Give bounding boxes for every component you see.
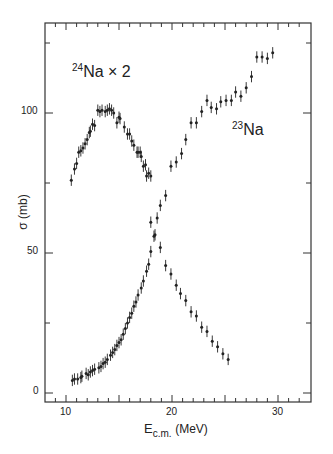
data-point: [134, 301, 137, 304]
data-point: [195, 315, 198, 318]
data-point: [120, 338, 123, 341]
data-point: [250, 75, 253, 78]
data-point: [111, 351, 114, 354]
data-point: [128, 316, 131, 319]
data-point: [200, 326, 203, 329]
y-tick-label-0: 0: [33, 385, 39, 396]
data-point: [261, 56, 264, 59]
y-tick-label-100: 100: [21, 105, 38, 116]
data-point: [239, 95, 242, 98]
y-tick-label-50: 50: [27, 245, 38, 256]
data-point: [145, 270, 148, 273]
data-point: [126, 322, 129, 325]
data-point: [130, 312, 133, 315]
data-point: [211, 340, 214, 343]
data-point: [142, 280, 145, 283]
data-point: [124, 327, 127, 330]
data-point: [216, 345, 219, 348]
annotation-23na: 23Na: [232, 120, 264, 139]
y-axis-ticks: [45, 43, 311, 393]
data-point: [122, 333, 125, 336]
x-tick-label-30: 30: [272, 406, 283, 417]
data-point: [79, 149, 82, 152]
x-axis-label-sub: c.m.: [153, 428, 172, 439]
data-point: [156, 217, 159, 220]
data-point: [200, 110, 203, 113]
data-point: [104, 361, 107, 364]
data-point: [110, 109, 113, 112]
data-point: [205, 330, 208, 333]
data-point: [93, 368, 96, 371]
data-point: [255, 56, 258, 59]
data-point: [89, 130, 92, 133]
data-point: [73, 168, 76, 171]
data-point: [80, 375, 83, 378]
data-point: [149, 250, 152, 253]
series-24na-points: [70, 103, 230, 365]
data-point: [169, 273, 172, 276]
data-point: [190, 310, 193, 313]
data-point: [179, 292, 182, 295]
annotation-23na-mass: 23: [232, 120, 243, 131]
data-point: [84, 142, 87, 145]
data-point: [145, 175, 148, 178]
data-point: [132, 305, 135, 308]
data-point: [159, 204, 162, 207]
data-point: [175, 161, 178, 164]
data-point: [109, 354, 112, 357]
data-point: [113, 348, 116, 351]
data-point: [159, 246, 162, 249]
data-point: [87, 373, 90, 376]
series-23na-points: [71, 47, 274, 386]
annotation-24na-mass: 24: [72, 62, 83, 73]
data-point: [271, 51, 274, 54]
data-point: [184, 138, 187, 141]
annotation-24na-text: Na × 2: [83, 63, 131, 80]
data-point: [147, 263, 150, 266]
data-point: [230, 99, 233, 102]
data-point: [118, 341, 121, 344]
data-point: [219, 100, 222, 103]
data-point: [227, 358, 230, 361]
data-point: [144, 163, 147, 166]
data-point: [70, 179, 73, 182]
data-point: [123, 126, 126, 129]
data-point: [81, 147, 84, 150]
x-tick-label-20: 20: [166, 406, 177, 417]
data-point: [195, 121, 198, 124]
x-tick-label-10: 10: [60, 406, 71, 417]
data-point: [180, 152, 183, 155]
data-point: [234, 91, 237, 94]
data-point: [112, 112, 115, 115]
data-point: [190, 121, 193, 124]
x-axis-label: Ec.m. (MeV): [144, 421, 208, 439]
data-point: [147, 172, 150, 175]
data-point: [175, 284, 178, 287]
data-point: [106, 358, 109, 361]
annotation-24na: 24Na × 2: [72, 62, 131, 81]
data-point: [164, 264, 167, 267]
data-point: [221, 352, 224, 355]
data-point: [132, 144, 135, 147]
data-point: [128, 133, 131, 136]
x-axis-label-main: E: [144, 421, 153, 436]
data-point: [184, 299, 187, 302]
data-point: [245, 86, 248, 89]
data-point: [73, 378, 76, 381]
data-point: [115, 121, 118, 124]
data-point: [140, 287, 143, 290]
data-point: [75, 162, 78, 165]
data-point: [76, 378, 79, 381]
data-point: [152, 235, 155, 238]
data-point: [205, 99, 208, 102]
x-axis-label-unit: (MeV): [175, 422, 208, 436]
data-point: [149, 175, 152, 178]
data-point: [119, 117, 122, 120]
data-point: [210, 106, 213, 109]
data-point: [140, 155, 143, 158]
data-point: [164, 194, 167, 197]
data-point: [137, 294, 140, 297]
y-axis-label: σ (mb): [16, 187, 30, 237]
data-point: [169, 165, 172, 168]
data-point: [149, 221, 152, 224]
